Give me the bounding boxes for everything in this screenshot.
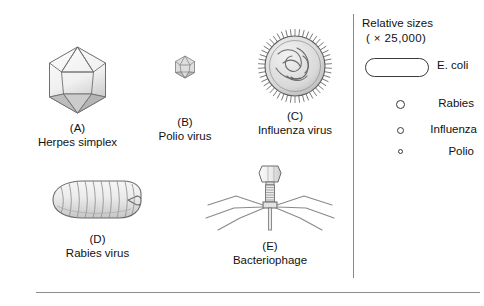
specimen-letter: (E)	[190, 240, 350, 254]
legend-item-polio: Polio	[353, 143, 484, 163]
bullet-shaped-virion-icon	[10, 175, 185, 225]
specimen-name: Rabies virus	[10, 247, 185, 261]
specimen-name: Bacteriophage	[190, 254, 350, 268]
legend-title-line1: Relative sizes	[362, 17, 433, 29]
bacteriophage-icon	[190, 160, 350, 238]
legend-item-ecoli: E. coli	[363, 56, 483, 80]
legend-label-rabies: Rabies	[353, 97, 474, 109]
figure-bottom-rule	[36, 292, 480, 293]
legend-title: Relative sizes ( × 25,000)	[362, 16, 433, 45]
specimen-letter: (D)	[10, 233, 185, 247]
specimen-letter: (B)	[130, 116, 240, 130]
small-icosahedron-virion-icon	[130, 44, 240, 90]
specimen-rabies-virus: (D) Rabies virus	[10, 175, 185, 260]
spiked-spherical-virion-icon	[235, 26, 355, 106]
specimen-caption: (C) Influenza virus	[235, 110, 355, 137]
legend-item-influenza: Influenza	[353, 122, 484, 142]
legend-label-polio: Polio	[353, 145, 474, 157]
specimen-bacteriophage: (E) Bacteriophage	[190, 160, 350, 267]
specimen-name: Polio virus	[130, 130, 240, 144]
specimen-panel: (A) Herpes simplex	[0, 0, 353, 306]
relative-sizes-legend: Relative sizes ( × 25,000) E. coli Rabie…	[353, 0, 484, 306]
specimen-letter: (C)	[235, 110, 355, 124]
specimen-caption: (B) Polio virus	[130, 116, 240, 143]
legend-item-rabies: Rabies	[353, 96, 484, 116]
specimen-caption: (E) Bacteriophage	[190, 240, 350, 267]
specimen-caption: (D) Rabies virus	[10, 233, 185, 260]
specimen-influenza-virus: (C) Influenza virus	[235, 26, 355, 137]
legend-title-line2: ( × 25,000)	[362, 31, 433, 46]
ecoli-capsule-icon	[365, 58, 429, 77]
legend-label-influenza: Influenza	[353, 123, 477, 135]
specimen-name: Influenza virus	[235, 124, 355, 138]
legend-label-ecoli: E. coli	[437, 59, 468, 71]
virus-morphology-figure: (A) Herpes simplex	[0, 0, 484, 306]
specimen-polio-virus: (B) Polio virus	[130, 44, 240, 143]
